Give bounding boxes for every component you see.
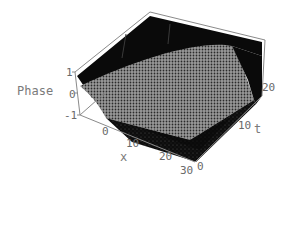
x-tick-10: 10 [126, 138, 139, 149]
t-tick-0: 0 [197, 161, 204, 172]
t-tick-20: 20 [262, 82, 275, 93]
x-axis-title: x [120, 152, 127, 163]
z-tick-1: 1 [66, 67, 73, 78]
z-tick-minus1: -1 [64, 110, 77, 121]
t-axis-title: t [254, 124, 261, 135]
z-axis-title: Phase [17, 86, 53, 97]
x-tick-0: 0 [102, 126, 109, 137]
x-tick-30: 30 [180, 165, 193, 176]
t-tick-10: 10 [238, 120, 251, 131]
z-tick-0: 0 [69, 89, 76, 100]
x-tick-20: 20 [159, 151, 172, 162]
